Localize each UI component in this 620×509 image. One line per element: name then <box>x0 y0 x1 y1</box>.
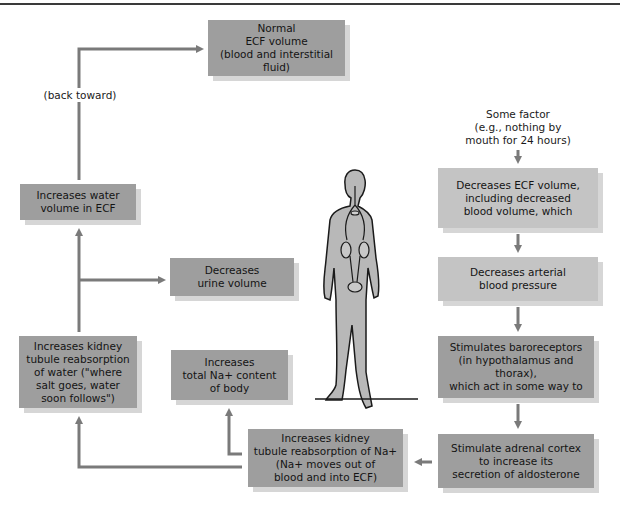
na-reabsorption-box: Increases kidney tubule reabsorption of … <box>248 429 403 487</box>
baroreceptors-box: Stimulates baroreceptors (in hypothalamu… <box>438 336 594 398</box>
water-reabsorption-text: Increases kidney tubule reabsorption of … <box>26 340 129 405</box>
water-volume-box: Increases water volume in ECF <box>20 184 136 220</box>
urine-text: Decreases urine volume <box>197 264 266 290</box>
decreases-ecf-text: Decreases ECF volume, including decrease… <box>456 179 580 218</box>
normal-ecf-box: Normal ECF volume (blood and interstitia… <box>208 20 345 76</box>
total-na-box: Increases total Na+ content of body <box>171 350 288 400</box>
water-reabsorption-box: Increases kidney tubule reabsorption of … <box>19 336 137 408</box>
start-label: Some factor (e.g., nothing by mouth for … <box>456 108 580 147</box>
adrenal-text: Stimulate adrenal cortex to increase its… <box>451 442 581 481</box>
decreases-ecf-box: Decreases ECF volume, including decrease… <box>438 168 598 228</box>
normal-ecf-text: Normal ECF volume (blood and interstitia… <box>212 22 341 74</box>
decreases-bp-box: Decreases arterial blood pressure <box>438 257 598 301</box>
loop-label: (back toward) <box>38 89 122 102</box>
water-volume-text: Increases water volume in ECF <box>36 189 119 215</box>
total-na-text: Increases total Na+ content of body <box>183 356 277 395</box>
na-reabsorption-text: Increases kidney tubule reabsorption of … <box>254 432 397 484</box>
urine-box: Decreases urine volume <box>170 258 294 296</box>
baroreceptors-text: Stimulates baroreceptors (in hypothalamu… <box>442 341 590 393</box>
adrenal-box: Stimulate adrenal cortex to increase its… <box>438 434 594 488</box>
decreases-bp-text: Decreases arterial blood pressure <box>470 266 566 292</box>
